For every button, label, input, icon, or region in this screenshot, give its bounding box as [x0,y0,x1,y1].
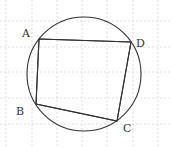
vertex-label-a: A [21,27,31,40]
edge-ad [39,39,131,42]
cyclic-quadrilateral-diagram: A D B C [0,0,172,147]
quadrilateral-abcd [36,39,131,121]
vertex-label-c: C [123,122,131,135]
background-grid [0,0,172,147]
vertex-label-b: B [16,105,24,118]
edge-ba [36,39,39,104]
vertex-label-d: D [136,37,145,50]
